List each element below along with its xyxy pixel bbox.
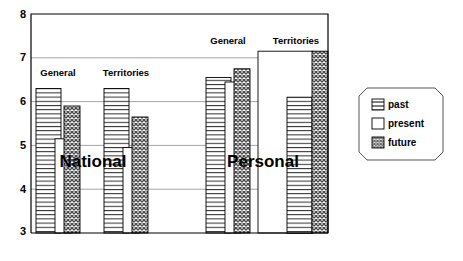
bar-group-personal-territories xyxy=(258,51,328,233)
group-label-personal-territories: Territories xyxy=(273,35,319,46)
legend-swatch-future xyxy=(372,137,384,148)
chart-figure-root: 8 7 6 5 4 3 xyxy=(0,0,463,261)
section-label-national: National xyxy=(59,152,126,171)
y-tick-3: 3 xyxy=(20,225,26,237)
bar-personal-general-future xyxy=(234,69,250,233)
bar-personal-territories-future xyxy=(312,51,328,233)
y-tick-7: 7 xyxy=(20,51,26,63)
bar-group-personal-general xyxy=(206,69,250,233)
group-label-personal-general: General xyxy=(210,35,245,46)
legend-label-future: future xyxy=(388,137,417,148)
y-tick-4: 4 xyxy=(20,183,27,195)
legend-label-present: present xyxy=(388,118,425,129)
y-tick-5: 5 xyxy=(20,139,26,151)
legend-label-past: past xyxy=(388,99,409,110)
y-tick-6: 6 xyxy=(20,95,26,107)
chart-legend: past present future xyxy=(359,88,443,160)
legend-swatch-present xyxy=(372,118,384,129)
legend-swatch-past xyxy=(372,99,384,110)
y-axis-tick-labels: 8 7 6 5 4 3 xyxy=(20,8,27,237)
group-label-national-general: General xyxy=(40,67,75,78)
bar-chart-svg: 8 7 6 5 4 3 xyxy=(0,0,463,261)
section-label-personal: Personal xyxy=(227,152,299,171)
y-tick-8: 8 xyxy=(20,8,26,20)
group-label-national-territories: Territories xyxy=(103,67,149,78)
bar-national-territories-future xyxy=(132,117,148,233)
